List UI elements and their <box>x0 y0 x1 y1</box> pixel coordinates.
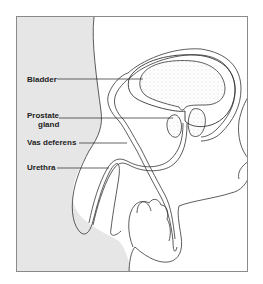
label-urethra: Urethra <box>27 163 55 172</box>
label-prostate-line1: Prostate <box>27 111 59 120</box>
diagram-frame: Bladder Prostate gland Vas deferens Uret… <box>16 16 248 272</box>
urethra-outer <box>89 123 183 223</box>
urethra-inner <box>93 123 187 225</box>
seminal-vesicle <box>188 109 205 137</box>
label-bladder: Bladder <box>27 75 57 84</box>
scrotum-outline <box>129 176 248 272</box>
label-prostate-line2: gland <box>38 120 59 129</box>
label-vas-deferens: Vas deferens <box>27 138 76 147</box>
buttock-outline <box>238 96 248 179</box>
bladder-cavity <box>140 61 225 110</box>
testis <box>137 199 170 241</box>
